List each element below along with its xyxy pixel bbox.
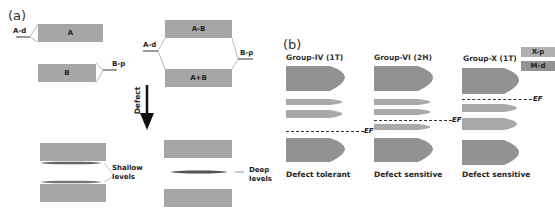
fermi-label-group-vi: EF xyxy=(452,116,462,124)
fermi-label-group-x: EF xyxy=(533,95,543,103)
fermi-line-group-iv xyxy=(286,131,364,132)
fermi-line-group-x xyxy=(462,99,532,100)
caption-group-iv: Defect tolerant xyxy=(286,170,350,179)
dos-shapes xyxy=(0,0,555,218)
fermi-line-group-vi xyxy=(374,120,452,121)
caption-group-vi: Defect sensitive xyxy=(374,170,442,179)
fermi-label-group-iv: EF xyxy=(364,127,374,135)
caption-group-x: Defect sensitive xyxy=(462,170,530,179)
